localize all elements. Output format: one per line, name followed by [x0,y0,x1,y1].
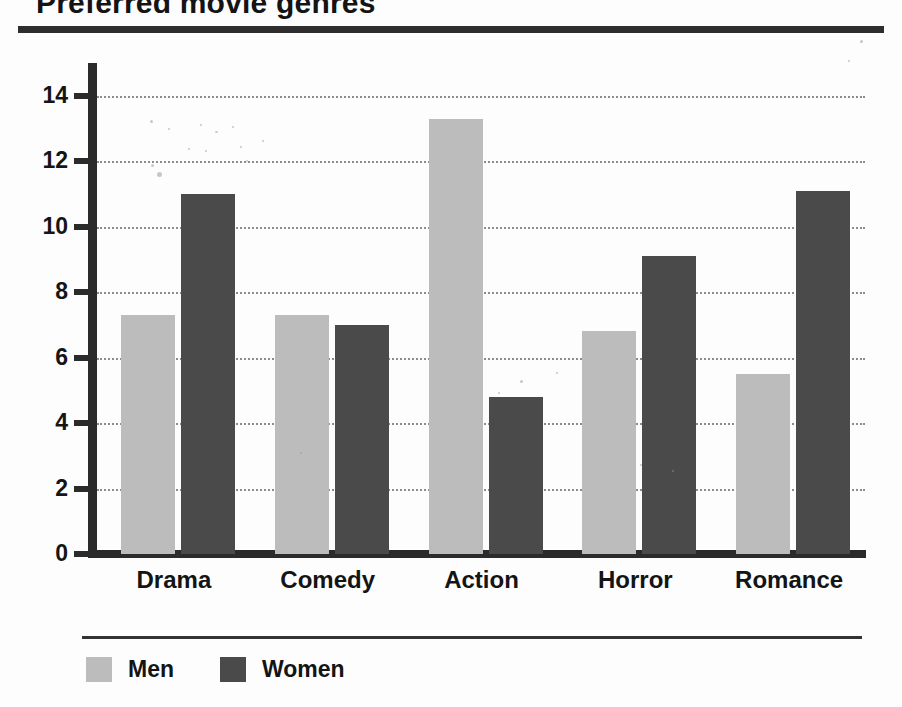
scan-speckle [205,150,207,152]
y-tick-label: 10 [20,213,68,240]
scan-speckle [232,126,234,128]
bars-layer [97,63,866,554]
y-tick-mark [74,224,90,230]
y-axis-spine [88,63,97,556]
scan-speckle [215,131,218,133]
y-tick-label: 14 [20,82,68,109]
y-tick-label: 0 [20,540,68,567]
legend-swatch-women [220,657,246,682]
scan-speckle [151,164,154,167]
scan-speckle [520,380,523,383]
bar-action-women [489,397,543,554]
scan-speckle [498,392,500,394]
scan-speckle [168,128,170,130]
title-divider-rule [18,26,884,33]
scan-speckle [150,120,153,123]
scan-speckle [300,452,302,454]
bar-romance-women [796,191,850,554]
y-tick-mark [74,551,90,557]
scan-speckle [860,40,863,43]
legend-divider-rule [82,636,862,639]
y-tick-mark [74,158,90,164]
bar-horror-women [642,256,696,554]
y-tick-label: 6 [20,344,68,371]
bar-romance-men [736,374,790,554]
bar-horror-men [582,331,636,554]
scan-speckle [188,148,190,150]
bar-drama-men [121,315,175,554]
scan-speckle [556,372,558,374]
legend-item-women: Women [220,656,345,683]
y-tick-mark [74,420,90,426]
legend-swatch-men [86,657,112,682]
chart-legend: MenWomen [86,656,345,683]
y-tick-mark [74,93,90,99]
bar-drama-women [181,194,235,554]
bar-comedy-men [275,315,329,554]
scan-speckle [640,464,642,466]
scan-speckle [240,146,242,148]
y-tick-mark [74,289,90,295]
bar-action-men [429,119,483,554]
y-tick-label: 8 [20,278,68,305]
category-label-action: Action [405,566,559,594]
scan-speckle [157,172,162,177]
category-label-drama: Drama [97,566,251,594]
scan-speckle [246,160,248,162]
legend-label-men: Men [128,656,174,683]
x-axis-category-labels: DramaComedyActionHorrorRomance [97,566,866,602]
category-label-horror: Horror [558,566,712,594]
y-tick-label: 2 [20,475,68,502]
category-label-comedy: Comedy [251,566,405,594]
scan-speckle [262,140,264,142]
y-tick-label: 4 [20,409,68,436]
chart-figure: Preferred movie genres 02468101214 Drama… [0,0,902,707]
scan-speckle [672,470,674,472]
scan-speckle [848,60,850,62]
category-label-romance: Romance [712,566,866,594]
legend-label-women: Women [262,656,345,683]
legend-item-men: Men [86,656,174,683]
y-tick-mark [74,355,90,361]
y-tick-label: 12 [20,147,68,174]
scan-speckle [200,124,202,126]
bar-comedy-women [335,325,389,554]
y-tick-mark [74,486,90,492]
chart-title: Preferred movie genres [36,0,376,20]
